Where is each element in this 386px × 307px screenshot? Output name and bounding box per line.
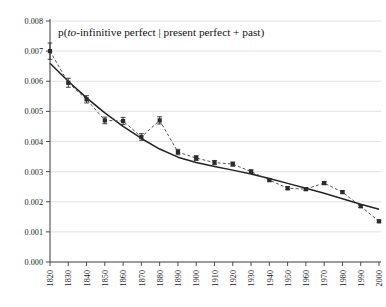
data-point <box>322 181 326 185</box>
x-tick-label: 1910 <box>211 270 220 286</box>
data-point <box>176 150 180 154</box>
data-point <box>66 81 70 85</box>
y-tick-label: 0.001 <box>25 228 43 237</box>
y-tick-label: 0.007 <box>25 47 43 56</box>
data-point <box>158 118 162 122</box>
y-tick-label: 0.004 <box>25 138 43 147</box>
x-tick-label: 1970 <box>320 270 329 286</box>
x-tick-label: 1950 <box>284 270 293 286</box>
data-point <box>194 156 198 160</box>
chart-title: p(to-infinitive perfect | present perfec… <box>58 26 264 39</box>
x-tick-label: 1820 <box>46 270 55 286</box>
y-tick-label: 0.003 <box>25 168 43 177</box>
x-axis-ticks: 1820183018401850186018701880189019001910… <box>46 262 384 286</box>
data-point-markers <box>48 49 381 223</box>
y-tick-label: 0.000 <box>25 258 43 267</box>
y-tick-label: 0.008 <box>25 17 43 26</box>
data-point <box>304 187 308 191</box>
x-tick-label: 2000 <box>375 270 384 286</box>
gridlines <box>50 21 381 262</box>
data-point <box>212 160 216 164</box>
data-point <box>377 219 381 223</box>
x-tick-label: 1840 <box>83 270 92 286</box>
x-tick-label: 1990 <box>357 270 366 286</box>
chart-container: 0.0000.0010.0020.0030.0040.0050.0060.007… <box>0 0 386 307</box>
y-tick-label: 0.005 <box>25 107 43 116</box>
data-point <box>48 49 52 53</box>
x-tick-label: 1900 <box>192 270 201 286</box>
x-tick-label: 1940 <box>266 270 275 286</box>
data-point <box>340 190 344 194</box>
x-tick-label: 1890 <box>174 270 183 286</box>
y-axis-ticks: 0.0000.0010.0020.0030.0040.0050.0060.007… <box>25 17 50 267</box>
data-point <box>121 119 125 123</box>
chart-plot: 0.0000.0010.0020.0030.0040.0050.0060.007… <box>0 0 386 307</box>
y-tick-label: 0.006 <box>25 77 43 86</box>
data-point <box>249 170 253 174</box>
x-tick-label: 1830 <box>64 270 73 286</box>
x-tick-label: 1850 <box>101 270 110 286</box>
x-tick-label: 1870 <box>138 270 147 286</box>
data-point <box>359 204 363 208</box>
x-tick-label: 1920 <box>229 270 238 286</box>
data-point <box>231 162 235 166</box>
x-tick-label: 1860 <box>119 270 128 286</box>
x-tick-label: 1980 <box>339 270 348 286</box>
data-point <box>103 118 107 122</box>
y-tick-label: 0.002 <box>25 198 43 207</box>
x-tick-label: 1880 <box>156 270 165 286</box>
data-point <box>84 97 88 101</box>
x-tick-label: 1960 <box>302 270 311 286</box>
data-point <box>139 135 143 139</box>
trend-line <box>50 63 379 209</box>
data-point <box>286 186 290 190</box>
series-line <box>50 51 379 221</box>
x-tick-label: 1930 <box>247 270 256 286</box>
data-point <box>267 178 271 182</box>
axes <box>50 19 381 262</box>
